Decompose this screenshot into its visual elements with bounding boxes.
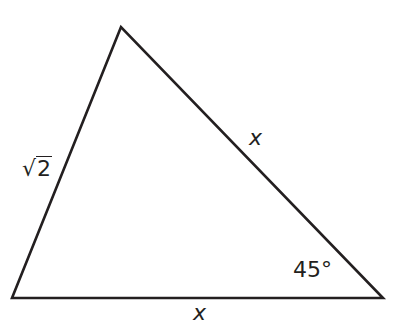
triangle-diagram — [0, 0, 403, 335]
sqrt-radicand: 2 — [36, 156, 52, 180]
left-side-label: √2 — [22, 156, 52, 180]
right-side-label: x — [249, 127, 262, 149]
angle-label: 45° — [293, 259, 332, 281]
bottom-side-label: x — [193, 302, 206, 324]
sqrt-symbol: √ — [22, 158, 36, 180]
